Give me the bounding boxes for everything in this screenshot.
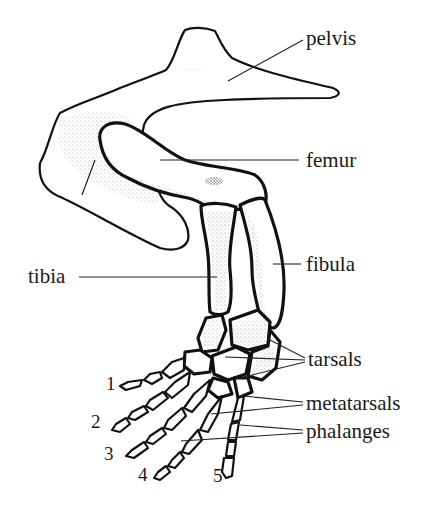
digit-label-2: 2 [91,411,101,432]
tibia-bone [201,203,236,314]
fibula-bone [240,198,284,328]
digit-label-5: 5 [213,465,223,486]
tarsal-bones [184,310,280,398]
digit-label-3: 3 [104,443,114,464]
label-pelvis: pelvis [306,26,356,50]
label-tarsals: tarsals [308,347,362,371]
digit-label-1: 1 [106,373,116,394]
femur-shading-mark [205,177,223,185]
label-metatarsals: metatarsals [306,391,400,415]
digit-label-4: 4 [138,464,148,485]
pelvis-bone [40,28,339,250]
diagram-canvas: pelvis femur tibia fibula tarsals metata… [0,0,429,516]
label-fibula: fibula [306,252,356,276]
hind-limb-skeleton-diagram: pelvis femur tibia fibula tarsals metata… [0,0,429,516]
metatarsals-leader-lines [211,396,303,414]
label-phalanges: phalanges [306,419,390,443]
label-femur: femur [306,148,356,172]
label-tibia: tibia [28,264,66,288]
